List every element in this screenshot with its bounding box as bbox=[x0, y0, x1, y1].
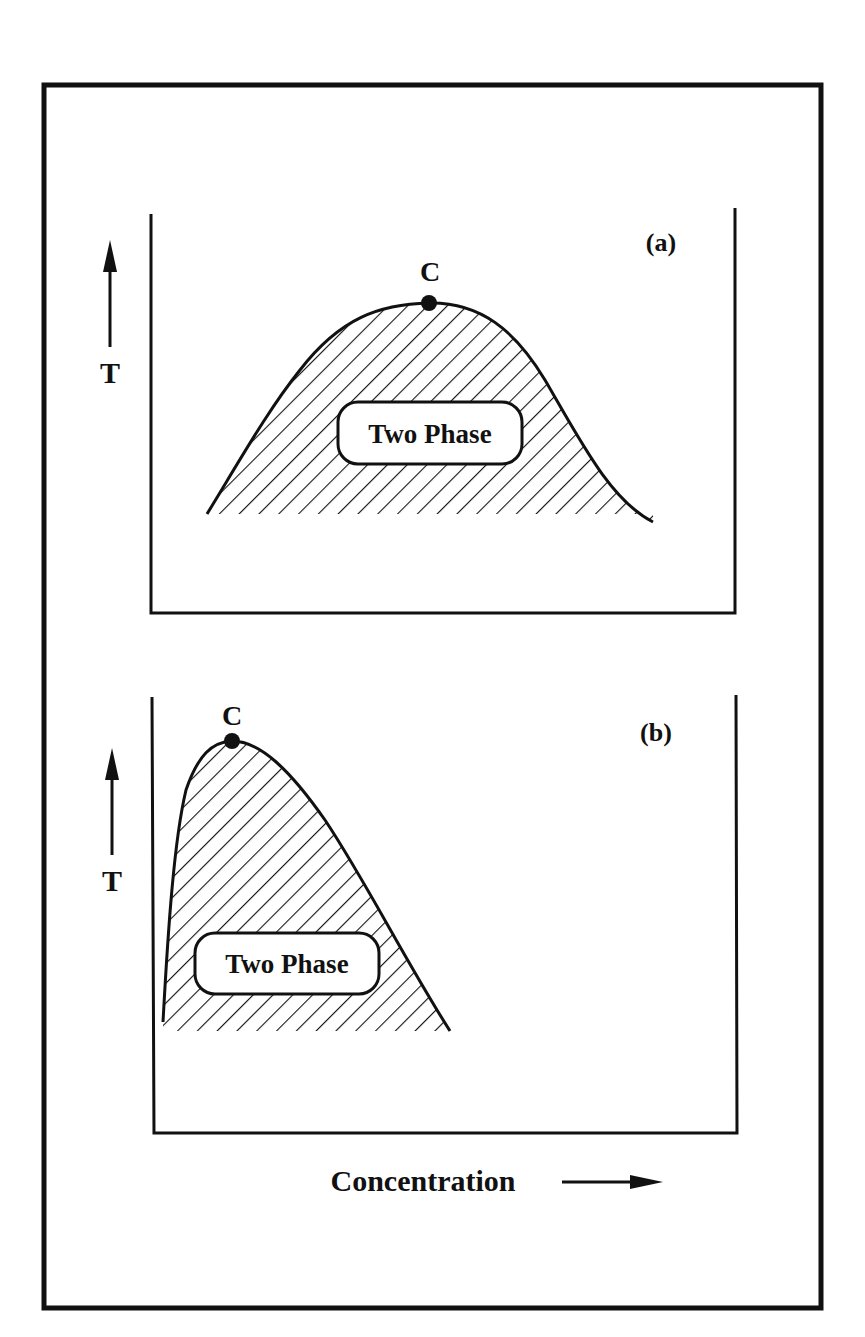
x-axis-label: Concentration bbox=[331, 1164, 516, 1197]
panel-b: C Two Phase (b) T bbox=[102, 695, 737, 1133]
phase-diagram-figure: C Two Phase (a) T C Two Phase (b) T Conc… bbox=[0, 0, 865, 1337]
panel-a: C Two Phase (a) T bbox=[100, 208, 735, 613]
panel-b-critical-label: C bbox=[222, 700, 242, 731]
x-axis-arrow-icon bbox=[630, 1175, 663, 1189]
panel-b-critical-point bbox=[224, 733, 240, 749]
panel-b-region-label: Two Phase bbox=[225, 949, 348, 979]
panel-a-y-axis-label: T bbox=[100, 356, 120, 389]
panel-b-t-arrow-icon bbox=[105, 748, 119, 780]
panel-a-critical-label: C bbox=[420, 256, 440, 287]
panel-a-region-label: Two Phase bbox=[368, 419, 491, 449]
panel-a-tag: (a) bbox=[646, 228, 676, 257]
panel-b-y-axis-label: T bbox=[102, 864, 122, 897]
panel-a-critical-point bbox=[421, 295, 437, 311]
panel-b-tag: (b) bbox=[640, 718, 672, 747]
panel-a-t-arrow-icon bbox=[103, 240, 117, 272]
